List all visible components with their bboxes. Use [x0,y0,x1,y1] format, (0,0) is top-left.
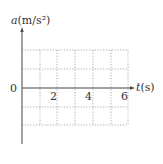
y-axis-label: a(m/s²) [11,15,50,26]
x-tick-6: 6 [121,91,128,102]
x-axis-label: t(s) [136,82,155,93]
x-tick-2: 2 [50,91,57,102]
origin-label: 0 [10,83,17,94]
x-tick-4: 4 [85,91,92,102]
y-axis-arrow-icon [20,27,23,32]
y-axis-unit: (m/s²) [18,14,51,27]
x-axis-unit: (s) [140,81,154,94]
x-axis-arrow-icon [130,86,135,89]
